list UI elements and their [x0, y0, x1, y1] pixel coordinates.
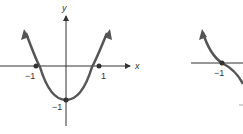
diagram-canvas: y x −1 1 −1 −1 — [0, 0, 243, 134]
point-x-intercept-neg — [34, 64, 39, 69]
right-x-tick-neg-label: −1 — [214, 68, 224, 78]
point-x-intercept-pos — [97, 64, 102, 69]
point-right-x-intercept — [220, 61, 225, 66]
x-tick-pos-label: 1 — [101, 71, 106, 81]
parabola-graph: y x −1 1 −1 — [0, 3, 140, 126]
partial-graph: −1 — [191, 29, 243, 105]
y-axis-label: y — [61, 3, 67, 13]
x-tick-neg-label: −1 — [25, 71, 35, 81]
point-vertex — [64, 98, 69, 103]
y-tick-neg-label: −1 — [52, 102, 62, 112]
x-axis-label: x — [134, 61, 140, 71]
